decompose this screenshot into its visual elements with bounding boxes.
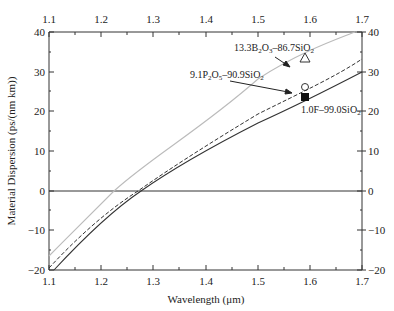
svg-text:10: 10 [368, 145, 380, 157]
svg-text:1.5: 1.5 [251, 13, 265, 25]
svg-text:40: 40 [34, 26, 46, 38]
svg-text:1.3: 1.3 [146, 13, 160, 25]
svg-text:30: 30 [368, 66, 380, 78]
svg-text:−20: −20 [28, 264, 46, 276]
svg-text:1.2: 1.2 [94, 275, 108, 287]
svg-text:1.1: 1.1 [42, 275, 56, 287]
svg-text:1.5: 1.5 [251, 275, 265, 287]
svg-text:−20: −20 [368, 264, 386, 276]
svg-text:1.2: 1.2 [94, 13, 108, 25]
y-axis-title: Material Dispersion (ps/(nm km)) [5, 76, 18, 225]
label-f: 1.0F–99.0SiO2 [301, 104, 361, 117]
label-p2o5: 9.1P2O5–90.9SiO2 [190, 69, 264, 82]
svg-text:40: 40 [368, 26, 380, 38]
svg-text:1.7: 1.7 [355, 13, 369, 25]
svg-text:30: 30 [34, 66, 46, 78]
svg-text:20: 20 [368, 105, 380, 117]
svg-text:1.7: 1.7 [355, 275, 369, 287]
dispersion-chart: 1.1 1.2 1.3 1.4 1.5 1.6 1.7 1.1 1.2 1.3 … [0, 0, 394, 311]
svg-text:1.1: 1.1 [42, 13, 56, 25]
square-marker [301, 93, 309, 101]
circle-marker [302, 84, 309, 91]
svg-text:−10: −10 [28, 224, 46, 236]
ticks [49, 32, 366, 270]
svg-text:1.6: 1.6 [303, 13, 317, 25]
markers [300, 53, 310, 101]
label-b2o3: 13.3B2O3–86.7SiO2 [234, 42, 314, 55]
svg-text:20: 20 [34, 105, 46, 117]
svg-text:1.4: 1.4 [199, 275, 213, 287]
svg-text:1.6: 1.6 [303, 275, 317, 287]
svg-text:−10: −10 [368, 224, 386, 236]
svg-text:0: 0 [40, 185, 46, 197]
curve-p2o5 [49, 59, 362, 268]
svg-text:1.4: 1.4 [199, 13, 213, 25]
svg-text:1.3: 1.3 [146, 275, 160, 287]
left-tick-labels: −20 −10 0 10 20 30 40 [28, 26, 46, 276]
top-tick-labels: 1.1 1.2 1.3 1.4 1.5 1.6 1.7 [42, 13, 369, 25]
curve-b2o3 [49, 32, 355, 256]
svg-text:0: 0 [368, 185, 374, 197]
svg-text:10: 10 [34, 145, 46, 157]
right-tick-labels: −20 −10 0 10 20 30 40 [368, 26, 386, 276]
curves [49, 32, 362, 270]
x-axis-title: Wavelength (μm) [168, 293, 245, 306]
bottom-tick-labels: 1.1 1.2 1.3 1.4 1.5 1.6 1.7 [42, 275, 369, 287]
curve-f [54, 72, 362, 270]
